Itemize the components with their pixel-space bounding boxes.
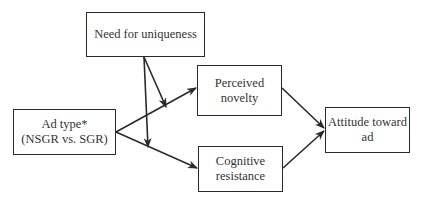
node-ad-type: Ad type* (NSGR vs. SGR) <box>13 109 116 155</box>
arrow-novelty-to-attitude <box>282 88 324 128</box>
node-label-line: novelty <box>221 91 259 106</box>
node-label-line: Ad type* <box>41 117 87 132</box>
node-label-line: resistance <box>216 169 265 184</box>
arrow-adtype-to-novelty <box>116 88 196 132</box>
node-need-for-uniqueness: Need for uniqueness <box>86 12 205 57</box>
research-model-diagram: Need for uniqueness Perceived novelty Co… <box>0 0 424 208</box>
node-label-line: Cognitive <box>216 154 265 169</box>
node-label-line: ad <box>362 130 374 145</box>
arrow-adtype-to-resistance <box>116 132 197 168</box>
arrow-uniqueness-moderates-novelty <box>144 57 166 107</box>
arrow-uniqueness-moderates-resistance <box>144 57 148 147</box>
node-cognitive-resistance: Cognitive resistance <box>198 146 283 192</box>
node-label-line: Need for uniqueness <box>94 27 197 42</box>
node-label-line: (NSGR vs. SGR) <box>21 132 107 147</box>
node-label-line: Perceived <box>215 76 264 91</box>
node-attitude-toward-ad: Attitude toward ad <box>325 107 410 153</box>
node-label-line: Attitude toward <box>328 115 407 130</box>
arrow-resistance-to-attitude <box>283 131 324 168</box>
node-perceived-novelty: Perceived novelty <box>197 65 282 116</box>
